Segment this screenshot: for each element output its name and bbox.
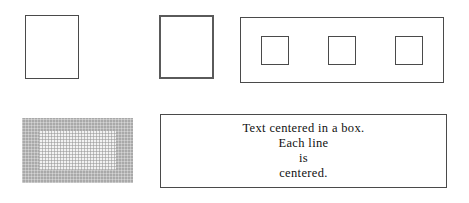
nested-box-2 [328, 36, 356, 65]
nested-box-1 [261, 36, 289, 65]
centered-text-line-4: centered. [161, 166, 446, 181]
nested-boxes-container [240, 17, 444, 83]
centered-text-line-1: Text centered in a box. [161, 121, 446, 136]
plain-framed-box [25, 15, 79, 79]
thick-ruled-box [159, 15, 214, 79]
nested-boxes-row [241, 18, 443, 82]
centered-text-box: Text centered in a box. Each line is cen… [160, 114, 447, 188]
centered-text-line-3: is [161, 151, 446, 166]
nested-box-3 [395, 36, 423, 65]
centered-text-line-2: Each line [161, 136, 446, 151]
shaded-box [22, 118, 133, 183]
figure-canvas: Text centered in a box. Each line is cen… [0, 0, 469, 203]
shaded-box-inner-panel [39, 131, 116, 170]
